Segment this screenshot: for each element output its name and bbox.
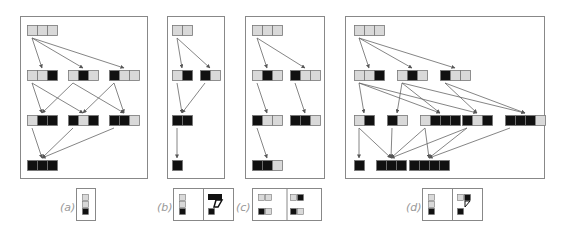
empty-cell xyxy=(311,71,321,81)
state-node xyxy=(377,161,407,171)
state-node xyxy=(173,116,193,126)
empty-cell xyxy=(180,195,186,201)
filled-cell xyxy=(259,209,265,215)
empty-cell xyxy=(365,71,375,81)
filled-cell xyxy=(173,116,183,126)
filled-cell xyxy=(365,116,375,126)
filled-cell xyxy=(463,116,473,126)
empty-cell xyxy=(259,195,265,201)
filled-cell xyxy=(173,161,183,171)
diagram-canvas xyxy=(0,0,561,233)
filled-cell xyxy=(465,195,471,201)
state-node xyxy=(355,116,375,126)
filled-cell xyxy=(506,116,516,126)
empty-cell xyxy=(253,71,263,81)
state-node xyxy=(388,116,408,126)
empty-cell xyxy=(355,71,365,81)
filled-cell xyxy=(110,116,120,126)
state-node xyxy=(28,26,58,36)
legend-shape-d xyxy=(423,188,483,221)
filled-cell xyxy=(48,161,58,171)
empty-cell xyxy=(461,71,471,81)
legend-shape-b xyxy=(174,188,234,221)
empty-cell xyxy=(28,71,38,81)
filled-cell xyxy=(110,71,120,81)
state-node xyxy=(421,116,461,126)
empty-cell xyxy=(266,209,272,215)
filled-cell xyxy=(298,195,304,201)
panel-c xyxy=(246,17,325,179)
empty-cell xyxy=(301,71,311,81)
empty-cell xyxy=(273,26,283,36)
state-node xyxy=(173,26,193,36)
state-node xyxy=(28,116,58,126)
state-node xyxy=(110,116,140,126)
filled-cell xyxy=(483,116,493,126)
filled-cell xyxy=(458,209,464,215)
empty-cell xyxy=(83,195,89,201)
filled-cell xyxy=(89,116,99,126)
legend-shape-c xyxy=(253,188,322,221)
empty-cell xyxy=(429,202,435,208)
empty-cell xyxy=(291,195,297,201)
caption-b: (b) xyxy=(157,201,173,214)
empty-cell xyxy=(28,116,38,126)
filled-cell xyxy=(440,161,450,171)
empty-cell xyxy=(418,71,428,81)
filled-cell xyxy=(301,116,311,126)
filled-cell xyxy=(83,209,89,215)
state-node xyxy=(201,71,221,81)
empty-cell xyxy=(266,195,272,201)
empty-cell xyxy=(38,71,48,81)
filled-cell xyxy=(38,116,48,126)
empty-cell xyxy=(429,195,435,201)
filled-cell xyxy=(183,71,193,81)
state-node xyxy=(441,71,471,81)
filled-cell xyxy=(69,116,79,126)
empty-cell xyxy=(473,116,483,126)
state-node xyxy=(355,161,365,171)
empty-cell xyxy=(120,71,130,81)
filled-cell xyxy=(120,116,130,126)
filled-cell xyxy=(263,161,273,171)
filled-cell xyxy=(410,161,420,171)
filled-cell xyxy=(431,116,441,126)
empty-cell xyxy=(38,26,48,36)
filled-cell xyxy=(291,116,301,126)
filled-cell xyxy=(526,116,536,126)
filled-cell xyxy=(38,161,48,171)
state-node xyxy=(173,161,183,171)
filled-cell xyxy=(79,71,89,81)
filled-cell xyxy=(183,116,193,126)
state-node xyxy=(253,116,283,126)
empty-cell xyxy=(69,71,79,81)
empty-cell xyxy=(28,26,38,36)
empty-cell xyxy=(183,26,193,36)
filled-cell xyxy=(263,71,273,81)
filled-cell xyxy=(180,209,186,215)
panel-frame xyxy=(346,17,545,179)
state-node xyxy=(506,116,546,126)
panel-frame xyxy=(246,17,325,179)
state-node xyxy=(28,71,58,81)
empty-cell xyxy=(451,71,461,81)
filled-cell xyxy=(377,161,387,171)
state-node xyxy=(69,71,99,81)
empty-cell xyxy=(180,202,186,208)
filled-cell xyxy=(291,209,297,215)
empty-cell xyxy=(211,71,221,81)
empty-cell xyxy=(130,71,140,81)
empty-cell xyxy=(48,26,58,36)
state-node xyxy=(410,161,450,171)
panel-frame xyxy=(168,17,225,179)
caption-c: (c) xyxy=(236,201,251,214)
panel-b xyxy=(168,17,225,179)
empty-cell xyxy=(311,116,321,126)
empty-cell xyxy=(173,26,183,36)
empty-cell xyxy=(79,116,89,126)
panel-d xyxy=(346,17,546,179)
empty-cell xyxy=(89,71,99,81)
empty-cell xyxy=(263,26,273,36)
filled-cell xyxy=(516,116,526,126)
empty-cell xyxy=(398,116,408,126)
